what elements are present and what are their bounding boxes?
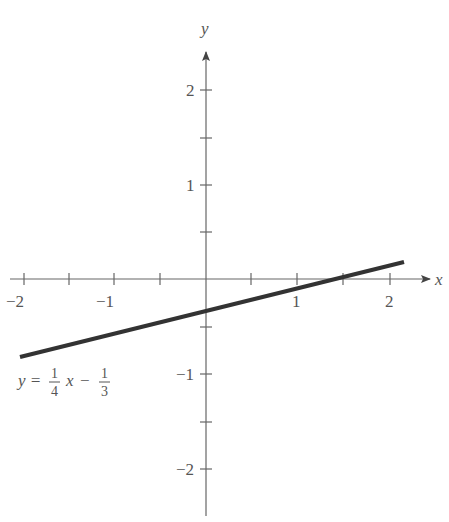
svg-text:y =: y =: [16, 371, 41, 390]
x-tick-label: 2: [385, 292, 394, 311]
svg-text:−: −: [80, 371, 90, 390]
x-tick-label: −1: [96, 292, 114, 311]
plotted-line: [20, 262, 404, 357]
x-tick-label: 1: [292, 292, 301, 311]
equation-label: y = 1 4 x − 1 3: [16, 366, 110, 399]
svg-text:1: 1: [51, 366, 58, 381]
y-tick-label: 2: [186, 81, 195, 100]
x-tick-label: −2: [6, 292, 24, 311]
y-tick-label: 1: [186, 176, 195, 195]
svg-text:1: 1: [101, 366, 108, 381]
svg-text:3: 3: [101, 384, 108, 399]
svg-text:4: 4: [51, 384, 58, 399]
y-tick-label: −2: [176, 460, 194, 479]
svg-text:x: x: [65, 371, 74, 390]
x-axis-label: x: [434, 270, 443, 289]
y-axis-label: y: [199, 19, 209, 38]
coordinate-plane: −2 −1 1 2 2 1 −1 −2 x y y = 1 4 x − 1 3: [0, 0, 449, 522]
y-tick-label: −1: [176, 365, 194, 384]
